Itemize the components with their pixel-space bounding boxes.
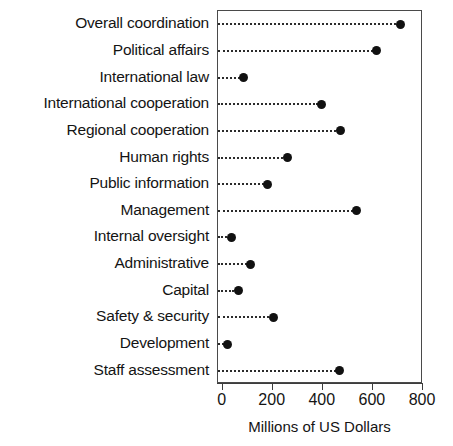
x-tick-label: 400 xyxy=(308,392,335,408)
data-point-marker xyxy=(223,340,232,349)
x-tick-mark xyxy=(422,383,423,390)
category-label: Regional cooperation xyxy=(0,122,209,138)
category-label: Capital xyxy=(0,282,209,298)
category-label: Political affairs xyxy=(0,42,209,58)
category-label: Public information xyxy=(0,175,209,191)
x-tick-mark xyxy=(222,383,223,390)
data-point-marker xyxy=(269,313,278,322)
leader-line xyxy=(218,130,336,132)
x-axis-title: Millions of US Dollars xyxy=(217,419,422,434)
leader-line xyxy=(218,236,227,238)
category-label: International cooperation xyxy=(0,95,209,111)
leader-line xyxy=(218,157,283,159)
data-point-marker xyxy=(335,366,344,375)
category-label: Internal oversight xyxy=(0,228,209,244)
data-point-marker xyxy=(234,286,243,295)
x-tick-label: 0 xyxy=(217,392,226,408)
x-axis-line xyxy=(217,383,422,384)
leader-line xyxy=(218,370,336,372)
leader-line xyxy=(218,183,264,185)
x-tick-mark xyxy=(372,383,373,390)
data-point-marker xyxy=(352,206,361,215)
dot-plot-chart: Overall coordinationPolitical affairsInt… xyxy=(0,0,453,446)
category-label: Management xyxy=(0,202,209,218)
category-label: International law xyxy=(0,69,209,85)
leader-line xyxy=(218,290,234,292)
leader-line xyxy=(218,210,353,212)
leader-line xyxy=(218,77,240,79)
x-tick-label: 200 xyxy=(258,392,285,408)
category-label: Development xyxy=(0,335,209,351)
plot-area xyxy=(217,10,422,383)
category-label: Safety & security xyxy=(0,308,209,324)
x-tick-label: 600 xyxy=(359,392,386,408)
data-point-marker xyxy=(263,180,272,189)
leader-line xyxy=(218,50,373,52)
data-point-marker xyxy=(246,260,255,269)
data-point-marker xyxy=(283,153,292,162)
data-point-marker xyxy=(239,73,248,82)
category-axis: Overall coordinationPolitical affairsInt… xyxy=(0,10,213,383)
leader-line xyxy=(218,103,318,105)
data-point-marker xyxy=(336,126,345,135)
category-label: Staff assessment xyxy=(0,362,209,378)
leader-line xyxy=(218,23,396,25)
leader-line xyxy=(218,263,247,265)
x-axis: 0200400600800 xyxy=(217,383,422,384)
x-tick-label: 800 xyxy=(409,392,436,408)
category-label: Administrative xyxy=(0,255,209,271)
category-label: Human rights xyxy=(0,149,209,165)
x-tick-mark xyxy=(322,383,323,390)
data-point-marker xyxy=(372,46,381,55)
x-tick-mark xyxy=(272,383,273,390)
data-point-marker xyxy=(227,233,236,242)
leader-line xyxy=(218,316,269,318)
data-point-marker xyxy=(317,100,326,109)
data-point-marker xyxy=(396,20,405,29)
category-label: Overall coordination xyxy=(0,15,209,31)
